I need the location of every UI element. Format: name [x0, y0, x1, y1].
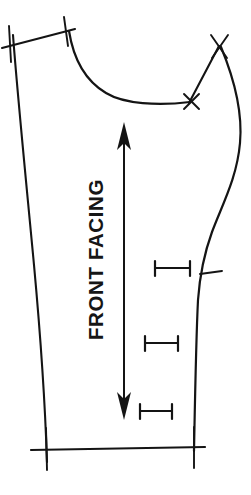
- pattern-figure: FRONT FACING: [0, 0, 251, 495]
- pattern-drawing-canvas: FRONT FACING: [0, 0, 251, 495]
- notch-cross-bottom-left: [46, 428, 47, 470]
- grainline-label: FRONT FACING: [84, 179, 107, 340]
- paper-background: [0, 0, 251, 495]
- grainline-text-group: FRONT FACING: [84, 179, 107, 340]
